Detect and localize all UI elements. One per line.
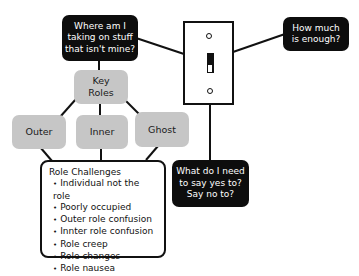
challenges-title: Role Challenges bbox=[49, 167, 159, 178]
question-line: What do I need bbox=[176, 166, 245, 178]
key-roles-node: Key Roles bbox=[74, 70, 128, 104]
question-taking-on-stuff: Where am I taking on stuff that isn't mi… bbox=[62, 15, 138, 61]
screw-icon bbox=[207, 88, 213, 94]
question-line: How much bbox=[292, 23, 341, 35]
screw-icon bbox=[206, 33, 212, 39]
question-how-much: How much is enough? bbox=[283, 17, 349, 51]
toggle-knob bbox=[208, 65, 212, 72]
question-line: taking on stuff bbox=[65, 32, 135, 44]
role-label: Ghost bbox=[148, 124, 176, 136]
list-item: Individual not the role bbox=[53, 178, 159, 202]
role-label: Inner bbox=[90, 126, 115, 138]
node-line: Roles bbox=[88, 87, 113, 99]
role-node-inner: Inner bbox=[76, 115, 128, 149]
challenges-list: Individual not the role Poorly occupied … bbox=[49, 178, 159, 275]
role-label: Outer bbox=[26, 126, 53, 138]
list-item: Role creep bbox=[53, 239, 159, 251]
toggle-icon bbox=[207, 53, 214, 73]
list-item: Role nausea bbox=[53, 263, 159, 275]
node-line: Key bbox=[88, 75, 113, 87]
question-line: Say no to? bbox=[176, 189, 245, 201]
role-node-outer: Outer bbox=[12, 115, 66, 149]
question-line: that isn't mine? bbox=[65, 44, 135, 56]
list-item: Outer role confusion bbox=[53, 214, 159, 226]
question-line: to say yes to? bbox=[176, 178, 245, 190]
list-item: Poorly occupied bbox=[53, 202, 159, 214]
question-yes-no: What do I need to say yes to? Say no to? bbox=[172, 160, 249, 207]
question-line: Where am I bbox=[65, 21, 135, 33]
light-switch-icon bbox=[183, 21, 234, 105]
role-node-ghost: Ghost bbox=[135, 112, 189, 147]
question-line: is enough? bbox=[292, 34, 341, 46]
list-item: Role changes bbox=[53, 251, 159, 263]
list-item: Innter role confusion bbox=[53, 226, 159, 238]
role-challenges-box: Role Challenges Individual not the role … bbox=[40, 160, 166, 258]
